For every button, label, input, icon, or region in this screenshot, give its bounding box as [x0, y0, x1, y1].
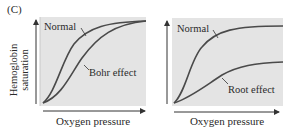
right-chart: Normal Root effect — [167, 18, 283, 112]
label-normal: Normal — [177, 23, 209, 34]
y-axis-label: Hemoglobin saturation — [8, 43, 30, 96]
x-axis-label-right: Oxygen pressure — [172, 115, 282, 127]
x-axis-label-left: Oxygen pressure — [38, 115, 148, 127]
label-normal: Normal — [44, 21, 76, 32]
left-chart: Normal Bohr effect — [36, 17, 146, 111]
label-bohr-effect: Bohr effect — [89, 67, 136, 78]
ylabel-line2: saturation — [19, 49, 30, 91]
label-root-effect: Root effect — [228, 84, 275, 95]
ylabel-line1: Hemoglobin — [8, 43, 19, 96]
